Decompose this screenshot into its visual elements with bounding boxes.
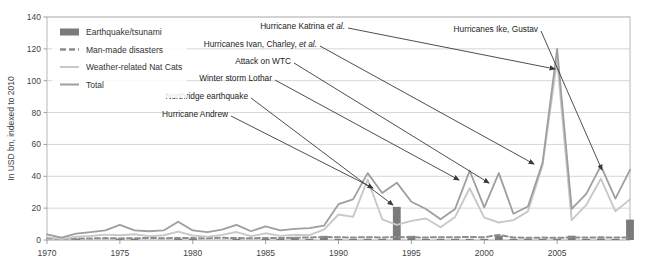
bar-2008 <box>597 238 605 240</box>
bar-1996 <box>422 239 430 240</box>
bar-1993 <box>378 239 386 240</box>
ytick-label-80: 80 <box>32 108 42 118</box>
bar-1999 <box>466 239 474 240</box>
xtick-label-2005: 2005 <box>548 248 567 258</box>
xtick-label-2000: 2000 <box>475 248 494 258</box>
bar-1991 <box>349 239 357 240</box>
annotation-label-hurricane-andrew: Hurricane Andrew <box>162 109 229 119</box>
bar-2004 <box>539 239 547 240</box>
legend-label-weather-related-nat-cats: Weather-related Nat Cats <box>86 62 182 72</box>
bar-2002 <box>509 239 517 240</box>
annotation-label-hurricanes-ivan-charley: Hurricanes Ivan, Charley, et al. <box>204 39 317 49</box>
bar-1988 <box>305 239 313 240</box>
bar-2007 <box>582 239 590 240</box>
legend-swatch-earthquake-tsunami <box>60 29 79 36</box>
ytick-label-0: 0 <box>36 235 41 245</box>
bar-1997 <box>437 239 445 240</box>
ytick-label-120: 120 <box>27 44 41 54</box>
xtick-label-1970: 1970 <box>38 248 57 258</box>
bar-1990 <box>335 239 343 240</box>
bar-2003 <box>524 239 532 240</box>
xtick-label-1975: 1975 <box>110 248 129 258</box>
y-axis-label: In USD bn, indexed to 2010 <box>6 76 16 181</box>
xtick-label-1995: 1995 <box>402 248 421 258</box>
ytick-label-40: 40 <box>32 171 42 181</box>
legend-label-total: Total <box>86 80 104 90</box>
annotation-label-hurricane-katrina: Hurricane Katrina et al. <box>260 21 345 31</box>
chart-container: 020406080100120140In USD bn, indexed to … <box>0 0 645 272</box>
annotation-label-winter-storm-lothar: Winter storm Lothar <box>199 73 272 83</box>
xtick-label-1985: 1985 <box>256 248 275 258</box>
annotation-label-attack-on-wtc: Attack on WTC <box>235 56 291 66</box>
ytick-label-60: 60 <box>32 139 42 149</box>
ytick-label-20: 20 <box>32 203 42 213</box>
xtick-label-1980: 1980 <box>183 248 202 258</box>
ytick-label-100: 100 <box>27 76 41 86</box>
legend-label-man-made-disasters: Man-made disasters <box>86 45 163 55</box>
xtick-label-1990: 1990 <box>329 248 348 258</box>
disaster-losses-chart: 020406080100120140In USD bn, indexed to … <box>0 0 645 272</box>
ytick-label-140: 140 <box>27 12 41 22</box>
bar-2005 <box>553 239 561 240</box>
bar-2009 <box>612 239 620 240</box>
annotation-label-hurricanes-ike-gustav: Hurricanes Ike, Gustav <box>454 24 539 34</box>
legend-label-earthquake-tsunami: Earthquake/tsunami <box>86 27 162 37</box>
bar-1992 <box>364 239 372 240</box>
bar-1998 <box>451 239 459 240</box>
bar-2000 <box>480 239 488 240</box>
bar-2001 <box>495 236 503 240</box>
